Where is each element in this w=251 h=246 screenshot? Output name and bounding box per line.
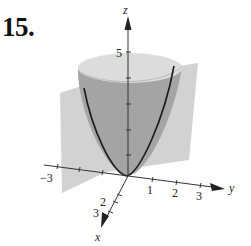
y-axis-arrow [210,183,225,191]
x-tick-label-2: 2 [100,195,106,209]
y-tick-label-3: 3 [196,189,202,203]
y-tick-label-2: 2 [172,186,178,200]
z-tick-label: 5 [116,46,122,60]
y-tick-label-1: 1 [147,183,153,197]
x-axis-label: x [94,230,101,244]
y-axis-label: y [228,181,235,195]
z-axis-label: z [122,3,128,17]
x-axis [104,176,128,222]
negative-y-tick-label: −3 [40,171,53,185]
x-tick-label-3: 3 [93,206,99,220]
paraboloid-figure: z 5 −3 1 2 3 y 2 3 x [0,0,251,246]
z-axis-arrow [125,16,132,30]
